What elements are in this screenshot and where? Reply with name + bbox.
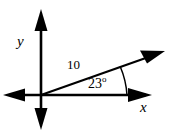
angle-diagram-figure: y x 10 23o <box>0 0 173 138</box>
terminal-ray-arrowhead-icon <box>140 51 165 64</box>
y-axis-label: y <box>17 34 24 49</box>
diagram-canvas <box>0 0 173 138</box>
angle-value: 23 <box>88 76 102 91</box>
x-axis-left-arrowhead-icon <box>3 89 25 102</box>
degree-symbol-icon: o <box>102 74 107 84</box>
ray-length-label: 10 <box>67 58 80 71</box>
angle-measure-label: 23o <box>88 75 107 91</box>
y-axis-down-arrowhead-icon <box>35 108 48 130</box>
x-axis-label: x <box>140 100 147 115</box>
y-axis-up-arrowhead-icon <box>35 9 48 31</box>
angle-arc <box>120 67 127 96</box>
